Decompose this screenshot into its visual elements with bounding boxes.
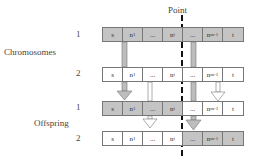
arrow-down-white-right bbox=[211, 92, 225, 101]
offspring-2-index: 2 bbox=[76, 133, 81, 143]
gene-s: s bbox=[103, 28, 123, 41]
gene-s: s bbox=[103, 102, 123, 115]
gene-ellipsis: ... bbox=[183, 28, 203, 41]
gene-t: t bbox=[223, 102, 243, 115]
gene-s: s bbox=[103, 132, 123, 145]
gene-t: t bbox=[223, 68, 243, 81]
gene-ellipsis: ... bbox=[143, 28, 163, 41]
gene-n1: n1 bbox=[123, 28, 143, 41]
gene-s: s bbox=[103, 68, 123, 81]
gene-ellipsis: ... bbox=[143, 68, 163, 81]
gene-ellipsis: ... bbox=[143, 102, 163, 115]
gene-nm1: nm-1 bbox=[203, 132, 223, 145]
gene-ellipsis: ... bbox=[143, 132, 163, 145]
gene-nm1: nm-1 bbox=[203, 28, 223, 41]
gene-ellipsis: ... bbox=[183, 132, 203, 145]
chromosome-2-index: 2 bbox=[76, 68, 81, 78]
gene-t: t bbox=[223, 132, 243, 145]
gene-t: t bbox=[223, 28, 243, 41]
offspring-1-index: 1 bbox=[76, 102, 81, 112]
gene-ellipsis: ... bbox=[183, 68, 203, 81]
gene-n1: n1 bbox=[123, 102, 143, 115]
offspring-1-row: s n1 ... ni ... nm-1 t bbox=[102, 101, 244, 116]
offspring-label: Offspring bbox=[34, 118, 69, 128]
gene-ellipsis: ... bbox=[183, 102, 203, 115]
connector-nm1-gray bbox=[191, 42, 196, 67]
gene-ni: ni bbox=[163, 102, 183, 115]
chromosome-1-index: 1 bbox=[76, 29, 81, 39]
arrow-down-gray-n1 bbox=[117, 91, 132, 100]
arrow-down-gray-nm1 bbox=[186, 120, 201, 130]
chromosome-1-row: s n1 ... ni ... nm-1 t bbox=[102, 27, 244, 42]
chromosomes-label: Chromosomes bbox=[4, 47, 56, 57]
gene-ni: ni bbox=[163, 68, 183, 81]
gene-nm1: nm-1 bbox=[203, 102, 223, 115]
gene-n1: n1 bbox=[123, 132, 143, 145]
chromosome-2-row: s n1 ... ni ... nm-1 t bbox=[102, 67, 244, 82]
connector-n1-gray bbox=[122, 42, 127, 67]
offspring-2-row: s n1 ... ni ... nm-1 t bbox=[102, 131, 244, 146]
gene-nm1: nm-1 bbox=[203, 68, 223, 81]
gene-ni: ni bbox=[163, 132, 183, 145]
point-label: Point bbox=[168, 5, 187, 15]
arrow-down-white-dots bbox=[143, 119, 157, 128]
gene-ni: ni bbox=[163, 28, 183, 41]
gene-n1: n1 bbox=[123, 68, 143, 81]
